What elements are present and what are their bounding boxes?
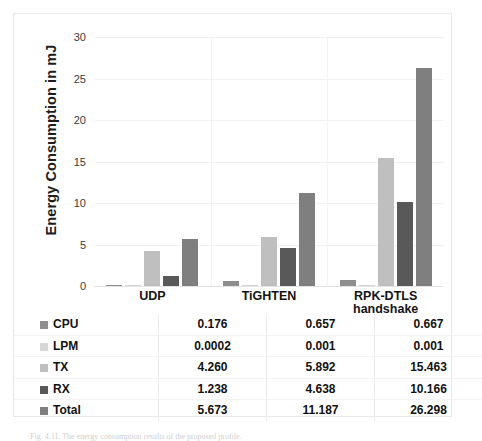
table-cell-tx-3: 15.463 bbox=[375, 357, 482, 379]
table-cell-rx-2: 4.638 bbox=[267, 378, 375, 400]
category-label-line: UDP bbox=[94, 290, 211, 303]
y-tick-label-0: 0 bbox=[52, 281, 86, 292]
legend-cell-total: Total bbox=[14, 400, 159, 421]
y-tick-label-10: 10 bbox=[52, 198, 86, 209]
bar-group-2 bbox=[223, 37, 315, 286]
legend-cell-tx: TX bbox=[14, 357, 159, 379]
bar-rx-2 bbox=[280, 248, 296, 286]
legend-swatch-icon-total bbox=[40, 407, 48, 415]
table-cell-tx-1: 4.260 bbox=[159, 357, 267, 379]
y-tick-label-30: 30 bbox=[52, 32, 86, 43]
table-cell-rx-3: 10.166 bbox=[375, 378, 482, 400]
bar-total-1 bbox=[182, 239, 198, 286]
table-row: Total5.67311.18726.298 bbox=[14, 400, 482, 421]
legend-swatch-icon-lpm bbox=[40, 343, 48, 351]
table-cell-cpu-1: 0.176 bbox=[159, 314, 267, 335]
y-tick-label-15: 15 bbox=[52, 157, 86, 168]
data-table: CPU0.1760.6570.667LPM0.00020.0010.001TX4… bbox=[14, 314, 482, 421]
table-cell-lpm-1: 0.0002 bbox=[159, 335, 267, 357]
bar-rx-3 bbox=[397, 202, 413, 286]
x-axis-baseline bbox=[94, 286, 444, 287]
bar-tx-1 bbox=[144, 251, 160, 286]
legend-cell-rx: RX bbox=[14, 378, 159, 400]
bar-tx-3 bbox=[378, 158, 394, 286]
legend-label: RX bbox=[53, 382, 70, 396]
legend-cell-cpu: CPU bbox=[14, 314, 159, 335]
bar-total-2 bbox=[299, 193, 315, 286]
bar-cpu-1 bbox=[106, 285, 122, 286]
legend-swatch-icon-cpu bbox=[40, 321, 48, 329]
category-label-2: TiGHTEN bbox=[211, 290, 328, 303]
bar-chart: Energy Consumption in mJ 051015202530 UD… bbox=[14, 14, 453, 301]
category-label-line: TiGHTEN bbox=[211, 290, 328, 303]
y-axis-ticks: 051015202530 bbox=[52, 14, 86, 301]
table-cell-lpm-2: 0.001 bbox=[267, 335, 375, 357]
y-tick-label-5: 5 bbox=[52, 240, 86, 251]
data-table-area: CPU0.1760.6570.667LPM0.00020.0010.001TX4… bbox=[14, 314, 453, 418]
legend-cell-lpm: LPM bbox=[14, 335, 159, 357]
table-cell-rx-1: 1.238 bbox=[159, 378, 267, 400]
table-cell-total-1: 5.673 bbox=[159, 400, 267, 421]
legend-swatch-icon-rx bbox=[40, 386, 48, 394]
legend-label: LPM bbox=[53, 339, 78, 353]
figure-caption: Fig. 4.11. The energy consumption result… bbox=[30, 432, 450, 441]
group-separator-1 bbox=[211, 37, 212, 286]
category-label-1: UDP bbox=[94, 290, 211, 303]
legend-label: CPU bbox=[53, 317, 78, 331]
table-row: RX1.2384.63810.166 bbox=[14, 378, 482, 400]
legend-swatch-icon-tx bbox=[40, 364, 48, 372]
bar-cpu-3 bbox=[340, 280, 356, 286]
group-separator-2 bbox=[327, 37, 328, 286]
bar-group-1 bbox=[106, 37, 198, 286]
bar-lpm-3 bbox=[359, 285, 375, 286]
table-row: TX4.2605.89215.463 bbox=[14, 357, 482, 379]
bar-total-3 bbox=[416, 68, 432, 286]
figure-container: Energy Consumption in mJ 051015202530 UD… bbox=[13, 13, 452, 417]
bar-group-3 bbox=[340, 37, 432, 286]
table-cell-total-3: 26.298 bbox=[375, 400, 482, 421]
table-cell-cpu-3: 0.667 bbox=[375, 314, 482, 335]
bar-tx-2 bbox=[261, 237, 277, 286]
bar-lpm-1 bbox=[125, 285, 141, 286]
table-cell-tx-2: 5.892 bbox=[267, 357, 375, 379]
table-cell-cpu-2: 0.657 bbox=[267, 314, 375, 335]
y-tick-label-20: 20 bbox=[52, 115, 86, 126]
legend-label: Total bbox=[53, 403, 81, 417]
bar-rx-1 bbox=[163, 276, 179, 286]
table-row: CPU0.1760.6570.667 bbox=[14, 314, 482, 335]
bar-cpu-2 bbox=[223, 281, 239, 286]
table-cell-lpm-3: 0.001 bbox=[375, 335, 482, 357]
legend-label: TX bbox=[53, 360, 68, 374]
table-cell-total-2: 11.187 bbox=[267, 400, 375, 421]
y-tick-label-25: 25 bbox=[52, 74, 86, 85]
category-label-3: RPK-DTLShandshake bbox=[327, 290, 444, 316]
table-row: LPM0.00020.0010.001 bbox=[14, 335, 482, 357]
bar-lpm-2 bbox=[242, 285, 258, 286]
